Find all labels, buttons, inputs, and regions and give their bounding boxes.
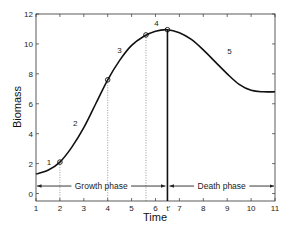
biomass-curve [36, 30, 275, 174]
x-tick-label: 2 [58, 204, 63, 213]
x-tick-label: t' [167, 204, 171, 213]
y-tick-label: 0 [29, 190, 34, 199]
phase-arrows: Growth phaseDeath phase [37, 181, 274, 191]
x-tick-label: 11 [271, 204, 280, 213]
y-tick-label: 8 [29, 70, 34, 79]
x-tick-label: 3 [82, 204, 87, 213]
x-tick-label: 5 [129, 204, 134, 213]
x-tick-label: 10 [247, 204, 256, 213]
y-axis: 024681012 [24, 10, 275, 199]
plot-frame [36, 14, 275, 201]
x-tick-label: 8 [201, 204, 206, 213]
y-axis-label: Biomass [11, 85, 23, 128]
y-tick-label: 12 [24, 10, 33, 19]
biomass-chart: 024681012 123456t'7891011 Growth phaseDe… [0, 0, 293, 231]
curve-annotation: 3 [117, 46, 122, 55]
y-tick-label: 10 [24, 40, 33, 49]
phase-label: Growth phase [75, 181, 128, 191]
x-tick-label: 4 [105, 204, 110, 213]
curve-annotation: 1 [47, 158, 52, 167]
dotted-guide-lines [60, 35, 146, 201]
y-tick-label: 4 [29, 130, 34, 139]
phase-label: Death phase [198, 181, 246, 191]
curve-annotation: 5 [227, 47, 232, 56]
x-axis-label: Time [143, 211, 167, 223]
curve-annotation: 2 [73, 119, 78, 128]
x-tick-label: 9 [225, 204, 230, 213]
y-tick-label: 6 [29, 100, 34, 109]
x-tick-label: 1 [34, 204, 39, 213]
curve-annotations: 12345 [47, 19, 232, 167]
x-tick-label: 7 [177, 204, 182, 213]
curve-annotation: 4 [154, 19, 159, 28]
y-tick-label: 2 [29, 160, 34, 169]
